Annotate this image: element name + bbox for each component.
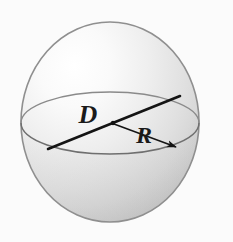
sphere-figure-container: Sphere with diameter D and radius R (0, 0, 233, 242)
radius-label: R (135, 122, 152, 148)
sphere-rim-shading (21, 22, 199, 222)
sphere-diagram-svg: Sphere with diameter D and radius R (0, 0, 233, 242)
diameter-label: D (78, 100, 98, 129)
sphere-center-point (111, 121, 115, 125)
